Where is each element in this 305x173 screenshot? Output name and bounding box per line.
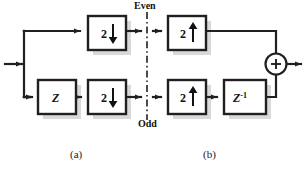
- figure-canvas: 2 Z 2: [0, 0, 305, 173]
- block-upsample-odd-label: 2: [180, 91, 186, 105]
- block-diagram-svg: 2 Z 2: [0, 0, 305, 173]
- caption-a: (a): [70, 148, 82, 160]
- block-delay-z-label: Z: [51, 91, 60, 105]
- block-downsample-even-label: 2: [101, 27, 107, 41]
- block-downsample-even: [88, 16, 126, 50]
- label-odd: Odd: [138, 118, 157, 129]
- block-downsample-odd: [88, 80, 126, 114]
- label-even: Even: [134, 0, 156, 11]
- block-upsample-even: [168, 16, 206, 50]
- block-upsample-odd: [168, 80, 206, 114]
- caption-b: (b): [203, 148, 216, 160]
- summing-junction: [266, 54, 287, 75]
- block-upsample-even-label: 2: [180, 27, 186, 41]
- block-downsample-odd-label: 2: [101, 91, 107, 105]
